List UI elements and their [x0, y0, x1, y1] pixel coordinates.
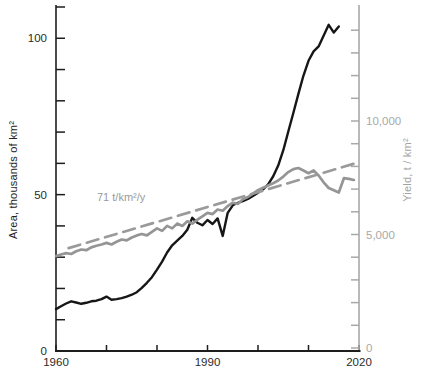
- x-tick-label: 2020: [346, 356, 372, 368]
- chart-canvas: 05010019601990202005,00010,000 Area, tho…: [0, 0, 424, 377]
- left-axis-title: Area, thousands of km²: [7, 121, 19, 239]
- trend-dashed-line: [69, 163, 357, 248]
- yield-series-line: [56, 168, 354, 256]
- right-tick-label: 10,000: [366, 115, 401, 127]
- right-tick-label: 0: [366, 342, 372, 354]
- plot-svg: 05010019601990202005,00010,000: [0, 0, 424, 377]
- right-axis-title: Yield, t / km²: [401, 138, 413, 202]
- right-tick-label: 5,000: [366, 229, 395, 241]
- left-tick-label: 100: [28, 32, 47, 44]
- x-tick-label: 1960: [43, 356, 69, 368]
- trend-slope-annotation: 71 t/km²/y: [97, 191, 145, 203]
- x-tick-label: 1990: [195, 356, 221, 368]
- area-series-line: [56, 25, 339, 309]
- left-tick-label: 50: [34, 189, 47, 201]
